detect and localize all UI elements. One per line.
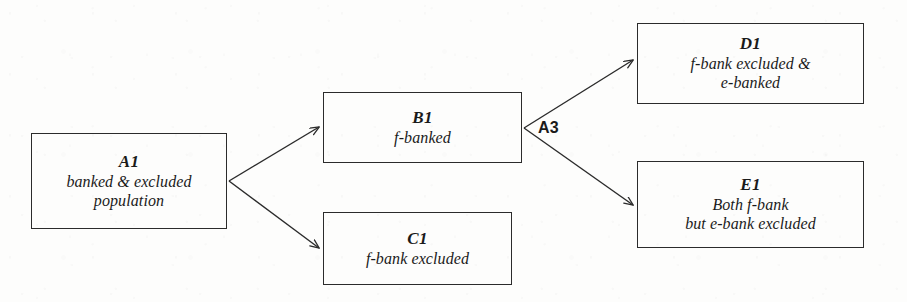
edge-b1-to-d1 <box>524 60 633 128</box>
node-b1-id: B1 <box>412 108 432 128</box>
edge-b1-to-e1 <box>524 128 633 205</box>
node-d1-id: D1 <box>740 34 761 54</box>
node-b1-description: f-banked <box>394 129 451 148</box>
edge-a1-to-c1 <box>229 181 319 248</box>
node-e1-id: E1 <box>740 175 760 195</box>
node-a1-description: banked & excluded population <box>66 173 191 211</box>
node-a1-id: A1 <box>119 152 139 172</box>
node-e1-description: Both f-bank but e-bank excluded <box>685 196 816 234</box>
node-b1[interactable]: B1 f-banked <box>323 92 522 163</box>
node-c1-description: f-bank excluded <box>366 250 469 269</box>
node-c1[interactable]: C1 f-bank excluded <box>323 212 512 285</box>
flowchart-diagram: A1 banked & excluded population B1 f-ban… <box>0 0 907 302</box>
node-e1[interactable]: E1 Both f-bank but e-bank excluded <box>637 161 864 248</box>
node-d1[interactable]: D1 f-bank excluded & e-banked <box>637 23 864 104</box>
node-a1[interactable]: A1 banked & excluded population <box>31 133 227 229</box>
node-d1-description: f-bank excluded & e-banked <box>691 55 811 93</box>
node-c1-id: C1 <box>407 229 427 249</box>
edge-label-a3: A3 <box>538 119 559 137</box>
edge-a1-to-b1 <box>229 127 319 181</box>
